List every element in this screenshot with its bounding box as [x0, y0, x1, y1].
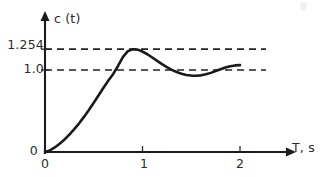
- x-axis-title: T, s: [292, 142, 315, 155]
- y-tick-label-1254: 1.254: [2, 39, 44, 52]
- y-tick-label-origin: 0: [22, 145, 38, 158]
- x-tick-label-0: 0: [35, 158, 55, 171]
- y-axis-arrow-icon: [41, 11, 50, 21]
- x-tick-label-2: 2: [230, 158, 250, 171]
- y-tick-label-10: 1.0: [2, 63, 44, 76]
- y-axis-title: c (t): [54, 13, 81, 26]
- x-tick-label-1: 1: [134, 158, 154, 171]
- step-response-chart: c (t) T, s 1.254 1.0 0 0 1 2: [0, 0, 325, 177]
- response-curve: [45, 49, 240, 152]
- scan-smudge: [300, 2, 307, 11]
- plot-area: [0, 0, 325, 177]
